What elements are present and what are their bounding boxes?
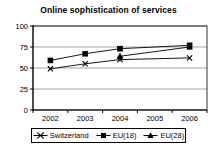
y-tick-label: 25 <box>20 85 28 94</box>
chart-legend: Switzerland EU(18) EU(28) <box>31 128 186 143</box>
data-point-marker <box>48 58 53 63</box>
x-axis-ticks: 20022003200420052006 <box>33 110 207 123</box>
y-tick-label: 100 <box>15 22 28 31</box>
legend-marker-plus-icon <box>33 131 48 140</box>
y-tick-label: 75 <box>20 43 28 52</box>
legend-item-eu28: EU(28) <box>143 131 184 140</box>
legend-label-eu28: EU(28) <box>160 132 184 140</box>
chart-figure: Online sophistication of services 025507… <box>0 0 217 150</box>
y-tick-label: 0 <box>24 106 28 115</box>
legend-item-switzerland: Switzerland <box>33 131 89 140</box>
x-tick-label: 2003 <box>77 114 94 123</box>
legend-label-eu18: EU(18) <box>113 132 137 140</box>
legend-marker-square-icon <box>96 131 111 140</box>
x-tick-label: 2005 <box>146 114 163 123</box>
data-point-marker <box>118 46 123 51</box>
x-tick-label: 2004 <box>112 114 129 123</box>
y-axis-ticks: 0255075100 <box>15 22 33 115</box>
x-tick-label: 2002 <box>42 114 59 123</box>
legend-label-switzerland: Switzerland <box>50 132 89 140</box>
x-tick-label: 2006 <box>181 114 198 123</box>
legend-marker-triangle-icon <box>143 131 158 140</box>
legend-item-eu18: EU(18) <box>96 131 137 140</box>
data-point-marker <box>83 51 88 56</box>
y-tick-label: 50 <box>20 64 28 73</box>
series-eu-28 <box>117 44 192 58</box>
